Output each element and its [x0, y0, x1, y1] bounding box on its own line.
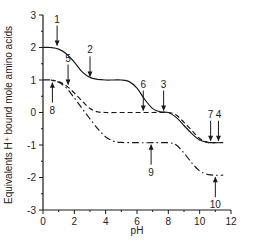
annotation-label: 6 — [140, 79, 146, 90]
annotation-label: 4 — [216, 109, 222, 120]
arrowhead-icon — [161, 106, 166, 112]
annotation-label: 7 — [208, 109, 214, 120]
y-tick-label: -1 — [27, 140, 36, 151]
arrowhead-icon — [216, 136, 221, 142]
x-tick-label: 0 — [40, 216, 46, 227]
annotation-label: 3 — [161, 79, 167, 90]
arrowhead-icon — [141, 106, 146, 112]
x-axis-title: pH — [131, 225, 144, 236]
annotation-1: 1 — [54, 14, 60, 47]
y-tick-label: 3 — [30, 10, 36, 21]
x-tick-label: 10 — [194, 216, 206, 227]
arrowhead-icon — [149, 144, 154, 150]
annotation-7: 7 — [208, 109, 214, 142]
x-tick-label: 4 — [103, 216, 109, 227]
arrowhead-icon — [66, 80, 71, 86]
annotation-3: 3 — [161, 79, 167, 112]
annotations-group: 12345678910 — [50, 14, 222, 211]
annotation-8: 8 — [50, 82, 56, 116]
series-dashed-line — [51, 80, 216, 143]
annotation-10: 10 — [210, 177, 222, 211]
x-tick-label: 12 — [225, 216, 237, 227]
annotation-9: 9 — [148, 144, 154, 178]
annotation-4: 4 — [216, 109, 222, 142]
arrowhead-icon — [208, 136, 213, 142]
x-tick-label: 2 — [72, 216, 78, 227]
y-tick-label: -3 — [27, 205, 36, 216]
annotation-label: 9 — [148, 167, 154, 178]
y-tick-label: -2 — [27, 172, 36, 183]
arrowhead-icon — [55, 41, 60, 47]
y-axis-title: Equivalents H⁺ bound mole amino acids — [3, 26, 14, 204]
annotation-label: 5 — [65, 53, 71, 64]
annotation-2: 2 — [87, 44, 93, 77]
y-tick-label: 0 — [30, 107, 36, 118]
series-dash-dot-line — [43, 80, 223, 175]
titration-chart: -3-2-10123 024681012 12345678910 pH Equi… — [0, 0, 258, 244]
annotation-label: 10 — [210, 199, 222, 210]
arrowhead-icon — [213, 177, 218, 183]
series-group — [43, 47, 223, 175]
x-tick-label: 8 — [166, 216, 172, 227]
annotation-label: 2 — [87, 44, 93, 55]
y-axis: -3-2-10123 — [27, 10, 43, 216]
y-tick-label: 1 — [30, 75, 36, 86]
annotation-5: 5 — [65, 53, 71, 86]
annotation-label: 1 — [54, 14, 60, 25]
annotation-label: 8 — [50, 105, 56, 116]
arrowhead-icon — [50, 82, 55, 88]
y-tick-label: 2 — [30, 42, 36, 53]
